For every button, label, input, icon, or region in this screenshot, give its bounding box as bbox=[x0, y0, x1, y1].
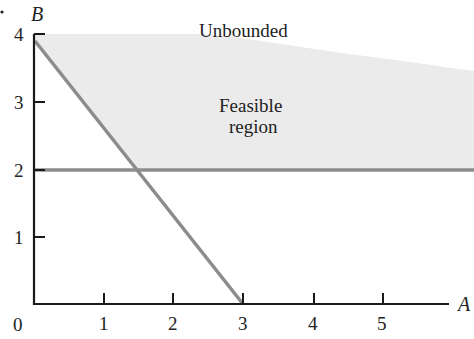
feasible-region-label-line2: region bbox=[229, 116, 278, 137]
x-tick-label-3: 3 bbox=[238, 313, 248, 334]
y-axis-label: B bbox=[31, 3, 43, 25]
y-tick-label-3: 3 bbox=[14, 92, 24, 113]
y-tick-label-1: 1 bbox=[14, 227, 24, 248]
x-tick-label-1: 1 bbox=[99, 313, 109, 334]
unbounded-label: Unbounded bbox=[199, 20, 288, 41]
origin-label: 0 bbox=[13, 314, 23, 335]
y-tick-label-4: 4 bbox=[14, 24, 24, 45]
x-tick-label-2: 2 bbox=[168, 313, 178, 334]
feasible-region-chart: B A 4 3 2 1 0 1 2 3 4 5 Unbounded Feasib… bbox=[0, 0, 474, 339]
feasible-region-label-line1: Feasible bbox=[219, 95, 282, 116]
x-tick-label-4: 4 bbox=[308, 313, 318, 334]
x-tick-label-5: 5 bbox=[377, 313, 387, 334]
y-tick-label-2: 2 bbox=[14, 160, 24, 181]
bullet-dot bbox=[0, 10, 3, 13]
x-axis-label: A bbox=[456, 293, 471, 315]
